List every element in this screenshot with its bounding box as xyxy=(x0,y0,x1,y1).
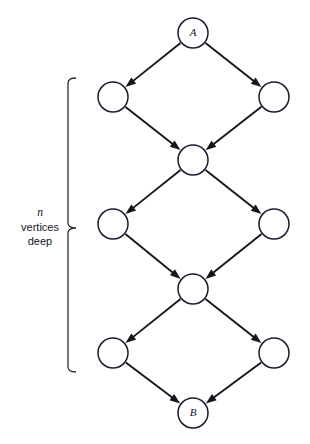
edge-a-to-l1 xyxy=(125,43,180,87)
edge-line xyxy=(132,299,180,338)
node-l3[interactable] xyxy=(98,338,128,368)
edge-m1-to-l2 xyxy=(125,170,180,214)
nodes-layer: AB xyxy=(98,18,289,428)
node-circle[interactable] xyxy=(98,82,128,112)
edge-a-to-r1 xyxy=(206,43,262,87)
edges-layer xyxy=(125,43,261,404)
edge-m2-to-r3 xyxy=(206,299,262,343)
edge-m1-to-r2 xyxy=(206,170,262,214)
node-label-b: B xyxy=(190,406,197,418)
node-circle[interactable] xyxy=(259,82,289,112)
node-circle[interactable] xyxy=(98,338,128,368)
annotation-line-2: vertices xyxy=(21,221,59,233)
edge-line xyxy=(125,234,173,273)
arrow-head-icon xyxy=(206,394,217,403)
node-circle[interactable] xyxy=(259,338,289,368)
edge-line xyxy=(212,234,261,274)
edge-line xyxy=(132,170,180,209)
annotation-line-3: deep xyxy=(28,235,52,247)
node-r3[interactable] xyxy=(259,338,289,368)
node-r2[interactable] xyxy=(259,209,289,239)
node-circle[interactable] xyxy=(178,274,208,304)
node-circle[interactable] xyxy=(259,209,289,239)
node-m2[interactable] xyxy=(178,274,208,304)
edge-line xyxy=(132,43,180,82)
diagram-canvas: AB n vertices deep xyxy=(0,0,310,444)
edge-r3-to-b xyxy=(206,363,261,404)
node-r1[interactable] xyxy=(259,82,289,112)
node-circle[interactable] xyxy=(178,145,208,175)
depth-annotation: n vertices deep xyxy=(21,78,76,372)
node-a[interactable]: A xyxy=(178,18,208,48)
edge-line xyxy=(126,363,174,399)
edge-line xyxy=(206,299,255,338)
edge-r2-to-m2 xyxy=(205,234,261,279)
edge-r1-to-m1 xyxy=(206,107,262,150)
edge-line xyxy=(206,170,255,209)
edge-line xyxy=(206,43,255,82)
node-label-a: A xyxy=(189,26,197,38)
edge-l3-to-b xyxy=(126,363,180,404)
annotation-variable: n xyxy=(37,206,43,218)
curly-brace-icon xyxy=(68,78,76,372)
annotation-variable-text: n xyxy=(37,206,43,218)
edge-m2-to-l3 xyxy=(125,299,180,343)
node-m1[interactable] xyxy=(178,145,208,175)
edge-l1-to-m1 xyxy=(126,107,181,150)
edge-line xyxy=(212,107,261,145)
node-b[interactable]: B xyxy=(178,398,208,428)
edge-line xyxy=(213,363,261,399)
node-l1[interactable] xyxy=(98,82,128,112)
node-l2[interactable] xyxy=(98,209,128,239)
edge-line xyxy=(126,107,174,145)
node-circle[interactable] xyxy=(98,209,128,239)
edge-l2-to-m2 xyxy=(125,234,180,279)
graph-diagram: AB n vertices deep xyxy=(0,0,310,444)
